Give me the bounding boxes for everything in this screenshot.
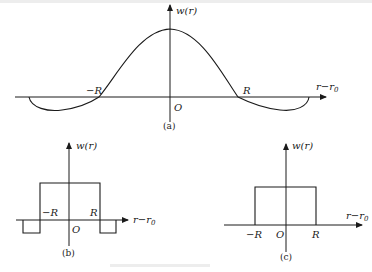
x-label-a: r−r0 (316, 81, 339, 94)
pos-r-label-b: R (89, 207, 98, 218)
kernel-functions-figure: w(r) r−r0 −R R O (a) w(r) r−r0 −R R O (b… (0, 0, 372, 272)
neg-r-label-b: −R (42, 207, 58, 218)
caption-c: (c) (280, 252, 292, 262)
x-label-c: r−r0 (346, 210, 369, 223)
x-label-b: r−r0 (133, 214, 156, 227)
pos-r-label-a: R (242, 85, 251, 96)
faded-bottom-caption (110, 264, 210, 267)
origin-label-c: O (276, 229, 284, 240)
y-label-b: w(r) (76, 140, 97, 151)
curve-a (29, 29, 309, 110)
y-label-c: w(r) (292, 140, 313, 151)
neg-r-label-c: −R (246, 229, 262, 240)
panel-a: w(r) r−r0 −R R O (a) (15, 5, 339, 131)
origin-label-b: O (72, 224, 80, 235)
origin-label-a: O (174, 102, 182, 113)
pos-r-label-c: R (311, 229, 320, 240)
panel-c: w(r) r−r0 −R R O (c) (224, 140, 369, 262)
panel-b: w(r) r−r0 −R R O (b) (16, 140, 156, 258)
y-label-a: w(r) (176, 5, 197, 16)
neg-r-label-a: −R (86, 85, 102, 96)
faded-top-text (0, 0, 372, 3)
caption-a: (a) (163, 121, 175, 131)
caption-b: (b) (62, 248, 75, 258)
